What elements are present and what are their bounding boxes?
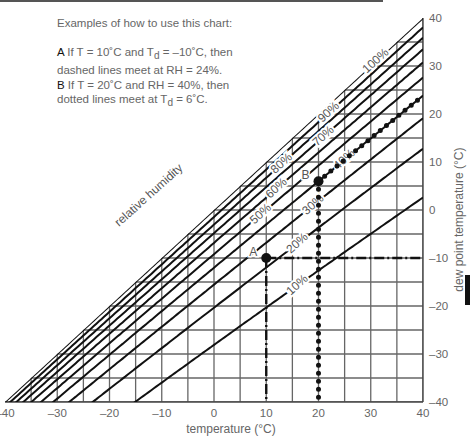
y-tick-label: 20	[429, 108, 442, 120]
rh-curve-30	[65, 118, 423, 405]
x-tick-label: 20	[312, 407, 325, 419]
y-tick-label: 30	[429, 60, 442, 72]
y-tick-label: –30	[429, 348, 448, 360]
rh-curve-50	[36, 78, 423, 407]
x-tick-label: 10	[260, 407, 273, 419]
page-tab-marker	[465, 275, 470, 305]
y-tick-label: –10	[429, 252, 448, 264]
x-tick-label: 40	[417, 407, 430, 419]
annotation-label-a: A	[249, 245, 257, 259]
annotation-point-a	[261, 253, 271, 263]
x-tick-label: 0	[211, 407, 217, 419]
rh-curve-90	[8, 27, 423, 404]
annotation-point-b	[314, 176, 324, 186]
x-tick-label: –40	[0, 407, 15, 419]
annotation-label-b: B	[301, 168, 309, 182]
y-tick-label: –20	[429, 300, 448, 312]
x-tick-label: –20	[100, 407, 119, 419]
rh-curve-70	[18, 49, 423, 406]
rh-curve-80	[13, 38, 423, 405]
x-tick-label: 30	[364, 407, 377, 419]
y-tick-label: –40	[429, 396, 448, 408]
rh-label-10: 10%	[283, 271, 310, 298]
x-tick-label: –30	[48, 407, 67, 419]
x-tick-label: –10	[152, 407, 171, 419]
y-tick-label: 10	[429, 156, 442, 168]
y-tick-label: 40	[429, 12, 442, 24]
y-axis-label: dew point temperature (°C)	[452, 147, 466, 291]
y-tick-label: 0	[429, 204, 435, 216]
x-axis-label: temperature (°C)	[186, 422, 276, 436]
curve-label: relative humidity	[112, 161, 186, 229]
dew-point-chart: 100%90%80%70%60%50%40%30%20%10%relative …	[0, 0, 470, 440]
